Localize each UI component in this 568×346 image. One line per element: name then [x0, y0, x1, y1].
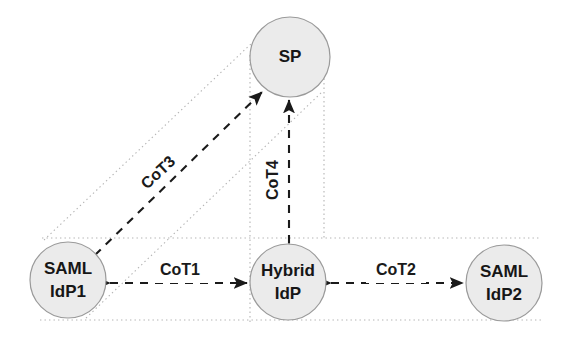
node-hybrid-idp-circle[interactable]	[250, 244, 326, 320]
node-hybrid-idp[interactable]: Hybrid IdP	[250, 244, 326, 320]
edge-label-cot2-group: CoT2	[366, 259, 426, 283]
node-saml-idp2[interactable]: SAML IdP2	[466, 245, 542, 321]
edge-label-cot3-group: CoT3	[129, 144, 189, 202]
node-sp-label-line1: SP	[279, 47, 302, 66]
edge-label-cot4: CoT4	[264, 160, 281, 200]
node-hybrid-idp-label-line1: Hybrid	[261, 261, 315, 280]
edge-label-cot4-group: CoT4	[262, 150, 286, 210]
edge-cot3-line[interactable]	[95, 92, 262, 255]
node-sp[interactable]: SP	[250, 17, 330, 97]
node-hybrid-idp-label-line2: IdP	[275, 284, 301, 303]
node-saml-idp1-label-line2: IdP1	[50, 282, 86, 301]
diagram-canvas: SP SAML IdP1 Hybrid IdP SAML IdP2	[0, 0, 568, 346]
node-saml-idp2-label-line2: IdP2	[486, 285, 522, 304]
node-saml-idp1-label-line1: SAML	[44, 259, 92, 278]
node-saml-idp1-circle[interactable]	[30, 242, 106, 318]
edge-label-cot1: CoT1	[160, 261, 200, 278]
node-saml-idp1[interactable]: SAML IdP1	[30, 242, 106, 318]
node-saml-idp2-circle[interactable]	[466, 245, 542, 321]
diagram-svg: SP SAML IdP1 Hybrid IdP SAML IdP2	[0, 0, 568, 346]
edge-label-cot1-group: CoT1	[150, 259, 210, 283]
boundary-line-diagonal-outer	[44, 42, 253, 240]
node-saml-idp2-label-line1: SAML	[480, 262, 528, 281]
edge-label-cot2: CoT2	[376, 261, 416, 278]
